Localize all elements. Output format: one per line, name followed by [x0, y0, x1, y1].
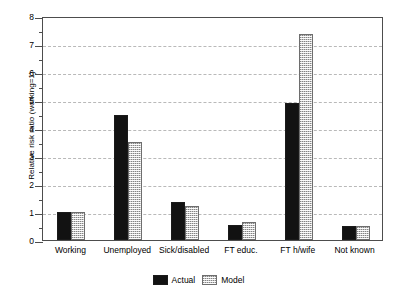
- bar-actual: [171, 202, 185, 240]
- bar-model: [128, 142, 142, 240]
- y-axis-tick-label: 2: [4, 181, 34, 190]
- y-axis-tick: [35, 186, 43, 187]
- bar-model: [71, 212, 85, 240]
- y-axis-tick-label: 7: [4, 41, 34, 50]
- legend-entry-actual: Actual: [153, 275, 196, 285]
- y-axis-tick: [35, 74, 43, 75]
- plot-area: [42, 17, 383, 241]
- bar-actual: [228, 225, 242, 240]
- y-axis-minor-tick: [39, 172, 43, 173]
- bar-group: [228, 18, 256, 240]
- y-axis-tick-label: 1: [4, 209, 34, 218]
- bar-group: [285, 18, 313, 240]
- y-axis-tick-label: 5: [4, 97, 34, 106]
- x-axis-tick-label: Not known: [305, 246, 397, 255]
- y-axis-tick-label: 0: [4, 237, 34, 246]
- y-axis-minor-tick: [39, 228, 43, 229]
- gridline: [43, 46, 382, 47]
- y-axis-tick-label: 3: [4, 153, 34, 162]
- y-axis-tick: [35, 18, 43, 19]
- y-axis-tick: [35, 242, 43, 243]
- y-axis-tick-label: 4: [4, 125, 34, 134]
- bar-group: [114, 18, 142, 240]
- bar-group: [342, 18, 370, 240]
- bar-group: [57, 18, 85, 240]
- gridline: [43, 158, 382, 159]
- plot-inner: [43, 18, 382, 240]
- gridline: [43, 102, 382, 103]
- chart-legend: Actual Model: [0, 275, 397, 285]
- gridline: [43, 214, 382, 215]
- legend-swatch-actual: [153, 275, 168, 285]
- y-axis-minor-tick: [39, 144, 43, 145]
- legend-entry-model: Model: [202, 275, 244, 285]
- bar-model: [242, 222, 256, 240]
- bar-model: [185, 206, 199, 240]
- y-axis-tick: [35, 102, 43, 103]
- y-axis-tick: [35, 46, 43, 47]
- y-axis-minor-tick: [39, 200, 43, 201]
- bar-actual: [57, 212, 71, 240]
- gridline: [43, 130, 382, 131]
- y-axis-minor-tick: [39, 116, 43, 117]
- bar-chart-figure: Relative risk ratio (working=1) Actual M…: [0, 0, 397, 299]
- legend-swatch-model: [202, 275, 217, 285]
- y-axis-tick: [35, 158, 43, 159]
- y-axis-minor-tick: [39, 60, 43, 61]
- bar-model: [299, 34, 313, 240]
- gridline: [43, 74, 382, 75]
- y-axis-tick-label: 8: [4, 13, 34, 22]
- legend-label-model: Model: [221, 275, 244, 285]
- y-axis-minor-tick: [39, 88, 43, 89]
- y-axis-minor-tick: [39, 32, 43, 33]
- bar-actual: [285, 103, 299, 240]
- legend-label-actual: Actual: [172, 275, 196, 285]
- bar-actual: [114, 115, 128, 240]
- bar-group: [171, 18, 199, 240]
- y-axis-tick: [35, 214, 43, 215]
- bar-model: [356, 226, 370, 240]
- gridline: [43, 186, 382, 187]
- bar-actual: [342, 226, 356, 240]
- y-axis-tick: [35, 130, 43, 131]
- y-axis-tick-label: 6: [4, 69, 34, 78]
